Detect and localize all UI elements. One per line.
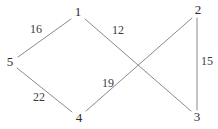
graph-edge-4-2 [86,18,192,111]
graph-edges-canvas [0,0,218,129]
edge-weight-2-3: 15 [196,55,218,67]
graph-node-5: 5 [2,55,18,68]
graph-node-3: 3 [189,110,205,123]
graph-figure: 12345 1612192215 [0,0,218,129]
graph-node-4: 4 [71,111,87,124]
edge-weight-5-4: 22 [28,91,50,103]
edge-weight-1-3: 12 [107,24,129,36]
graph-node-2: 2 [190,3,206,16]
edge-weight-5-1: 16 [25,23,47,35]
graph-node-1: 1 [70,5,86,18]
edge-weight-4-2: 19 [97,77,119,89]
